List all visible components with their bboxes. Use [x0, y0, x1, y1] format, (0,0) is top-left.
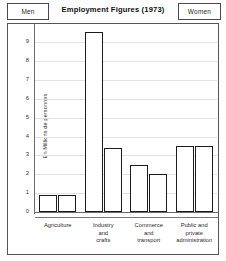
bar-women-2 [149, 174, 167, 212]
bar-men-1 [85, 32, 103, 212]
y-axis-tick-label: 8 [15, 57, 29, 63]
bar-men-3 [176, 146, 194, 212]
gridline [35, 99, 217, 100]
category-label-line: crafts [81, 237, 127, 245]
category-axis: AgricultureIndustryandcraftsCommerceandt… [35, 217, 218, 255]
category-label-line: Industry [81, 222, 127, 230]
gridline [35, 80, 217, 81]
y-axis-tick-label: 7 [15, 76, 29, 82]
category-label-line: Commerce [126, 222, 172, 230]
gridline [35, 118, 217, 119]
category-label-line: private [172, 230, 218, 238]
chart-page: Men Employment Figures (1973) Women En M… [0, 0, 226, 261]
chart-title: Employment Figures (1973) [50, 5, 176, 14]
category-label-line: and [126, 230, 172, 238]
legend-item-men[interactable]: Men [7, 3, 49, 20]
legend-item-women[interactable]: Women [178, 3, 221, 20]
category-label: Industryandcrafts [81, 222, 127, 245]
category-label-line: Public and [172, 222, 218, 230]
gridline [35, 61, 217, 62]
bar-women-0 [58, 195, 76, 212]
bar-men-2 [130, 165, 148, 212]
category-label-line: transport [126, 237, 172, 245]
y-axis-tick-label: 0 [15, 208, 29, 214]
y-axis-tick-label: 2 [15, 170, 29, 176]
y-axis-tick-label: 5 [15, 114, 29, 120]
category-label-line: Agriculture [35, 222, 81, 230]
chart-header: Men Employment Figures (1973) Women [0, 0, 226, 24]
y-axis-tick-label: 6 [15, 95, 29, 101]
y-axis-tick-label: 4 [15, 133, 29, 139]
bar-women-1 [104, 148, 122, 212]
category-label: Public andprivateadministration [172, 222, 218, 245]
category-label: Agriculture [35, 222, 81, 230]
y-axis-tick-label: 9 [15, 38, 29, 44]
x-axis-line [34, 212, 218, 213]
y-axis-tick-label: 1 [15, 189, 29, 195]
gridline [35, 42, 217, 43]
plot-area: 0123456789 [35, 29, 217, 212]
gridline [35, 137, 217, 138]
bar-men-0 [39, 195, 57, 212]
y-axis-tick-label: 3 [15, 151, 29, 157]
bar-women-3 [195, 146, 213, 212]
category-label: Commerceandtransport [126, 222, 172, 245]
category-label-line: and [81, 230, 127, 238]
category-label-line: administration [172, 237, 218, 245]
chart-frame: En Millions de personnes 0123456789 Agri… [7, 23, 219, 255]
